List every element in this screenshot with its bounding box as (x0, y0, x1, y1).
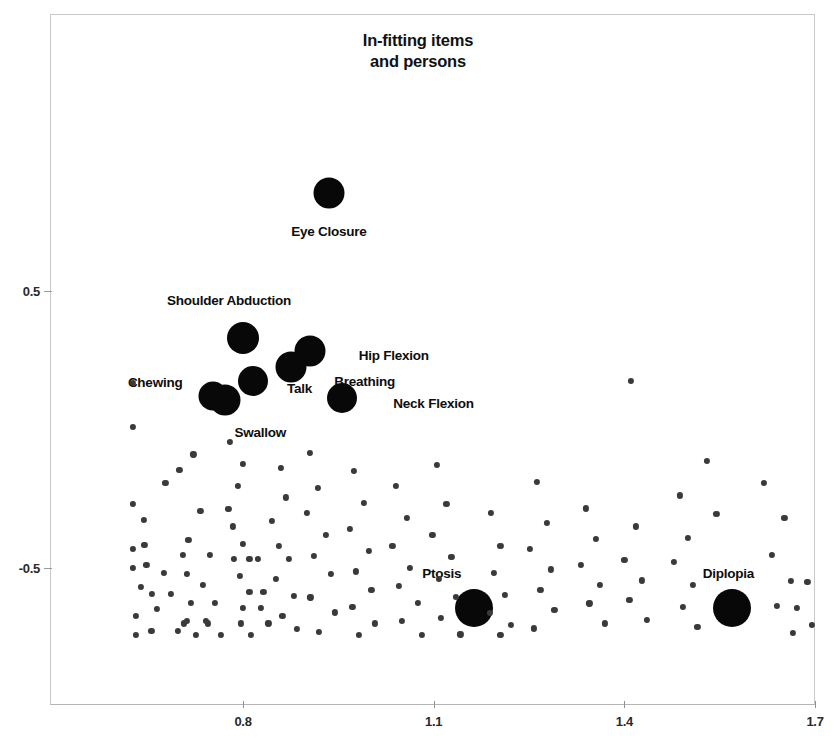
person-point (527, 546, 533, 552)
person-point (396, 583, 402, 589)
person-point (130, 501, 136, 507)
person-point (258, 605, 264, 611)
person-point (488, 510, 494, 516)
person-point (497, 632, 503, 638)
person-point (240, 605, 246, 611)
y-axis-tick-label: -0.5 (0, 561, 40, 576)
person-point (694, 624, 700, 630)
person-point (307, 450, 313, 456)
item-bubble (210, 385, 241, 416)
person-point (283, 494, 289, 500)
person-point (643, 617, 649, 623)
person-point (238, 620, 244, 626)
x-axis-tick-label: 1.4 (616, 714, 633, 729)
person-point (392, 483, 398, 489)
person-point (240, 541, 246, 547)
plot-area: 0.81.11.41.70.5-0.5Eye ClosureShoulder A… (0, 0, 838, 744)
person-point (602, 620, 608, 626)
person-point (160, 570, 166, 576)
person-point (303, 510, 309, 516)
person-point (626, 597, 632, 603)
person-point (404, 515, 410, 521)
person-point (265, 620, 271, 626)
person-point (180, 552, 186, 558)
person-point (628, 378, 634, 384)
person-point (544, 520, 550, 526)
y-axis-tick (44, 568, 52, 569)
person-point (130, 546, 136, 552)
person-point (193, 632, 199, 638)
person-point (788, 578, 794, 584)
x-axis-tick (243, 701, 244, 708)
person-point (366, 548, 372, 554)
person-point (349, 604, 355, 610)
person-point (149, 591, 155, 597)
person-point (200, 582, 206, 588)
person-point (680, 604, 686, 610)
person-point (621, 557, 627, 563)
person-point (185, 537, 191, 543)
person-point (429, 532, 435, 538)
item-label: Hip Flexion (359, 347, 429, 362)
person-point (246, 588, 252, 594)
person-point (406, 565, 412, 571)
y-axis-tick (44, 291, 52, 292)
person-point (184, 570, 190, 576)
x-axis-tick-label: 1.1 (425, 714, 442, 729)
person-point (143, 562, 149, 568)
person-point (154, 606, 160, 612)
person-point (597, 582, 603, 588)
person-point (148, 628, 154, 634)
person-point (294, 626, 300, 632)
person-point (804, 579, 810, 585)
person-point (190, 451, 196, 457)
person-point (389, 543, 395, 549)
person-point (761, 480, 767, 486)
y-axis-tick-label: 0.5 (0, 284, 40, 299)
item-bubble (275, 352, 306, 383)
person-point (531, 625, 537, 631)
person-point (690, 582, 696, 588)
person-point (230, 523, 236, 529)
person-point (633, 523, 639, 529)
item-bubble (327, 383, 357, 413)
item-bubble (227, 322, 259, 354)
person-point (227, 439, 233, 445)
item-bubble (238, 366, 268, 396)
person-point (372, 620, 378, 626)
person-point (260, 588, 266, 594)
person-point (231, 556, 237, 562)
person-point (434, 462, 440, 468)
person-point (276, 543, 282, 549)
person-point (639, 577, 645, 583)
person-point (502, 591, 508, 597)
person-point (491, 570, 497, 576)
person-point (677, 492, 683, 498)
person-point (356, 632, 362, 638)
person-point (133, 613, 139, 619)
person-point (133, 632, 139, 638)
item-label: Eye Closure (291, 223, 366, 238)
person-point (353, 568, 359, 574)
person-point (583, 505, 589, 511)
chart-screenshot: In-fitting itemsand persons 0.81.11.41.7… (0, 0, 838, 744)
person-point (436, 576, 442, 582)
item-bubble (313, 177, 344, 208)
person-point (578, 562, 584, 568)
person-point (188, 600, 194, 606)
person-point (212, 600, 218, 606)
person-point (286, 556, 292, 562)
x-axis-tick (624, 701, 625, 708)
person-point (235, 483, 241, 489)
person-point (311, 552, 317, 558)
item-label: Swallow (234, 425, 286, 440)
person-point (351, 468, 357, 474)
person-point (248, 632, 254, 638)
person-point (593, 536, 599, 542)
person-point (551, 606, 557, 612)
person-point (269, 518, 275, 524)
x-axis-tick-label: 0.8 (234, 714, 251, 729)
item-label: Talk (287, 381, 312, 396)
person-point (399, 618, 405, 624)
item-label: Chewing (128, 375, 183, 390)
